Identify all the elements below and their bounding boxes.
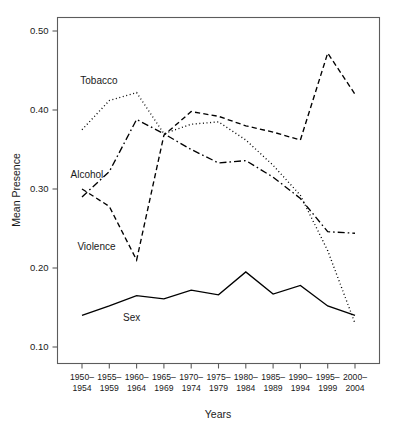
x-tick-label-bottom: 1969	[154, 383, 173, 393]
series-label-tobacco: Tobacco	[80, 75, 118, 86]
x-tick-label-bottom: 2004	[345, 383, 364, 393]
x-tick-label-top: 1965–	[152, 372, 176, 382]
y-axis-title: Mean Presence	[10, 153, 22, 227]
x-tick-label-bottom: 1964	[127, 383, 146, 393]
x-tick-label-bottom: 1974	[182, 383, 201, 393]
x-tick-label-bottom: 1959	[100, 383, 119, 393]
x-tick-label-top: 2000–	[343, 372, 367, 382]
x-tick-label-bottom: 1979	[209, 383, 228, 393]
y-tick-label: 0.10	[30, 341, 49, 352]
x-tick-label-top: 1990–	[288, 372, 312, 382]
x-tick-label-top: 1970–	[179, 372, 203, 382]
x-tick-label-bottom: 1989	[264, 383, 283, 393]
y-tick-label: 0.50	[30, 25, 49, 36]
line-chart-figure: 0.100.200.300.400.50 1950–19541955–19591…	[0, 0, 397, 429]
x-tick-label-top: 1960–	[125, 372, 149, 382]
y-tick-label: 0.20	[30, 262, 49, 273]
x-tick-label-bottom: 1994	[291, 383, 310, 393]
x-tick-label-top: 1985–	[261, 372, 285, 382]
x-axis-tick-labels: 1950–19541955–19591960–19641965–19691970…	[70, 372, 367, 394]
series-label-violence: Violence	[77, 241, 116, 252]
x-tick-label-bottom: 1954	[72, 383, 91, 393]
x-tick-label-top: 1950–	[70, 372, 94, 382]
x-tick-label-top: 1980–	[234, 372, 258, 382]
x-tick-label-top: 1995–	[316, 372, 340, 382]
x-tick-label-bottom: 1999	[318, 383, 337, 393]
series-label-alcohol: Alcohol	[71, 169, 104, 180]
x-tick-label-bottom: 1984	[236, 383, 255, 393]
x-axis-title: Years	[205, 408, 231, 420]
y-tick-label: 0.40	[30, 104, 49, 115]
chart-background	[0, 0, 397, 429]
x-tick-label-top: 1975–	[207, 372, 231, 382]
x-tick-label-top: 1955–	[97, 372, 121, 382]
y-tick-label: 0.30	[30, 183, 49, 194]
series-label-sex: Sex	[123, 312, 140, 323]
